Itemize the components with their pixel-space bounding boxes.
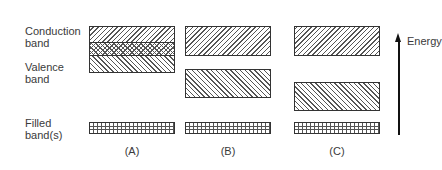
valence-label-line2: band: [25, 73, 64, 85]
panel-a-label: (A): [89, 145, 175, 157]
panel-a-filled-band: [89, 122, 175, 134]
panel-a-overlap-region: [89, 42, 175, 56]
panel-c-valence-band: [294, 82, 380, 111]
energy-axis-line: [398, 40, 401, 135]
panel-c-conduction-band: [294, 26, 380, 56]
panel-b-valence-band: [185, 69, 271, 98]
conduction-label-line2: band: [25, 37, 81, 49]
panel-c-label: (C): [294, 145, 380, 157]
valence-label-line1: Valence: [25, 61, 64, 73]
filled-bands-label: Filled band(s): [25, 117, 62, 141]
panel-b-filled-band: [185, 122, 271, 134]
conduction-band-label: Conduction band: [25, 25, 81, 49]
filled-label-line1: Filled: [25, 117, 62, 129]
panel-a-valence-band: [89, 55, 175, 73]
panel-b-label: (B): [185, 145, 271, 157]
energy-axis-label: Energy: [407, 35, 442, 47]
conduction-label-line1: Conduction: [25, 25, 81, 37]
panel-b-conduction-band: [185, 26, 271, 56]
valence-band-label: Valence band: [25, 61, 64, 85]
panel-c-filled-band: [294, 122, 380, 134]
filled-label-line2: band(s): [25, 129, 62, 141]
panel-a-conduction-band: [89, 26, 175, 43]
